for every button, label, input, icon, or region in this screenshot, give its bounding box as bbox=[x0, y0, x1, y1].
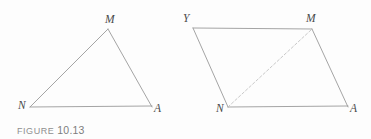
parallelogram-edge-A-N bbox=[228, 106, 348, 107]
parallelogram-YMAN bbox=[193, 28, 348, 107]
vertex-label-triangle-M: M bbox=[105, 14, 115, 26]
figure-container: M N A Y M N A FIGURE10.13 bbox=[0, 0, 371, 139]
triangle-edge-N-M bbox=[30, 29, 108, 107]
figure-caption: FIGURE10.13 bbox=[17, 121, 85, 137]
parallelogram-diagonal-N-M bbox=[228, 30, 311, 107]
vertex-label-parallelogram-N: N bbox=[216, 103, 224, 115]
triangle-MNA bbox=[30, 29, 152, 107]
figure-caption-word: FIGURE bbox=[17, 126, 54, 136]
figure-caption-number: 10.13 bbox=[57, 124, 84, 136]
vertex-label-triangle-A: A bbox=[154, 103, 161, 115]
vertex-label-parallelogram-M: M bbox=[306, 13, 316, 25]
parallelogram-edge-M-A bbox=[312, 29, 348, 107]
vertex-label-parallelogram-A: A bbox=[350, 103, 357, 115]
vertex-label-triangle-N: N bbox=[18, 100, 26, 112]
parallelogram-edge-Y-M bbox=[193, 28, 312, 29]
parallelogram-edge-N-Y bbox=[193, 28, 228, 107]
triangle-edge-M-A bbox=[108, 29, 152, 107]
vertex-label-parallelogram-Y: Y bbox=[183, 13, 189, 25]
triangle-edge-N-A bbox=[30, 106, 152, 107]
